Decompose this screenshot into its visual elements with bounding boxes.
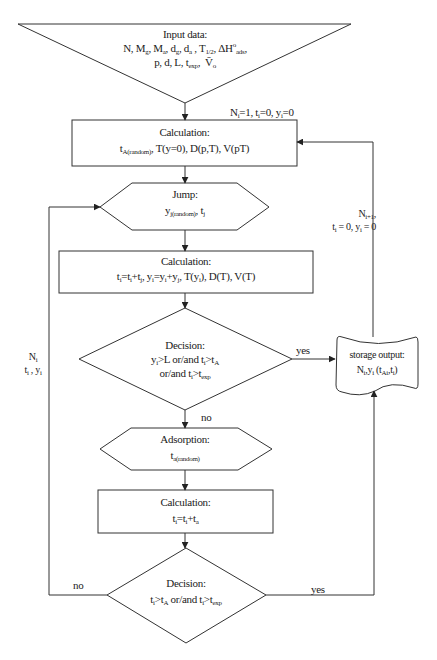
calc2-title: Calculation: xyxy=(59,255,313,269)
decision2-node: Decision: ti>tA or/and ti>texp xyxy=(126,577,246,607)
label-next-particle: Ni+1, ti = 0, yi = 0 xyxy=(318,208,376,233)
storage-body: Ni,yi (tAi,ti) xyxy=(336,364,418,377)
calc1-title: Calculation: xyxy=(72,126,297,140)
decision1-title: Decision: xyxy=(120,339,250,353)
edge-decision2-yes-to-storage xyxy=(266,391,374,595)
input-title: Input data: xyxy=(85,28,285,42)
calc3-body: ti=ti+ta xyxy=(98,512,273,526)
label-loop-left: Ni ti , yi xyxy=(18,351,48,376)
calc1-body: tA(random), T(y=0), D(p,T), V(pT) xyxy=(72,142,297,156)
jump-body: yj(random), tj xyxy=(110,204,260,218)
input-params-line1: N, Mg, Ma, dg, da , T1/2, ΔHoads, xyxy=(85,42,285,56)
calc2-node: Calculation: ti=ti+tj, yi=yi+yj, T(yi), … xyxy=(59,255,313,284)
decision1-node: Decision: yi>L or/and ti>tA or/and ti>te… xyxy=(120,339,250,380)
jump-title: Jump: xyxy=(110,188,260,202)
label-decision1-yes: yes xyxy=(296,344,310,356)
calc3-title: Calculation: xyxy=(98,496,273,510)
edge-storage-back-to-calc1 xyxy=(297,142,373,337)
flowchart-canvas xyxy=(0,0,437,660)
storage-node: storage output: Ni,yi (tAi,ti) xyxy=(336,349,418,376)
decision1-line1: yi>L or/and ti>tA xyxy=(120,353,250,367)
jump-node: Jump: yj(random), tj xyxy=(110,188,260,218)
calc1-node: Calculation: tA(random), T(y=0), D(p,T),… xyxy=(72,126,297,156)
decision1-line2: or/and ti>texp xyxy=(120,367,250,381)
adsorption-node: Adsorption: ta(random) xyxy=(110,433,260,463)
label-decision2-yes: yes xyxy=(311,583,325,595)
calc2-body: ti=ti+tj, yi=yi+yj, T(yi), D(T), V(T) xyxy=(59,270,313,284)
storage-title: storage output: xyxy=(336,349,418,362)
input-params-line2: p, d, L, texp, V̄o xyxy=(85,56,285,70)
label-init: Ni=1, ti=0, yi=0 xyxy=(230,106,294,118)
input-node: Input data: N, Mg, Ma, dg, da , T1/2, ΔH… xyxy=(85,28,285,69)
adsorption-body: ta(random) xyxy=(110,449,260,463)
label-decision2-no: no xyxy=(73,579,83,591)
adsorption-title: Adsorption: xyxy=(110,433,260,447)
calc3-node: Calculation: ti=ti+ta xyxy=(98,496,273,526)
decision2-body: ti>tA or/and ti>texp xyxy=(126,593,246,607)
label-decision1-no: no xyxy=(201,411,211,423)
decision2-title: Decision: xyxy=(126,577,246,591)
